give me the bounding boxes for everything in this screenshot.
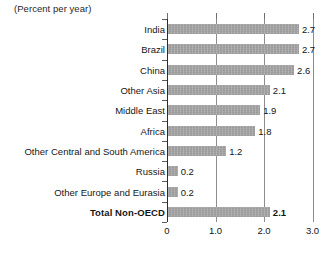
bar-value-label: 0.2	[181, 166, 194, 177]
bar-row: Total Non-OECD2.1	[0, 202, 335, 222]
category-label: India	[144, 24, 165, 35]
bar	[168, 65, 294, 75]
bar-row: China2.6	[0, 60, 335, 80]
bar-row: Brazil2.7	[0, 39, 335, 59]
x-tick-label-0: 0	[164, 225, 169, 236]
category-label: Russia	[136, 166, 165, 177]
bar-value-label: 0.2	[181, 186, 194, 197]
bar	[168, 187, 178, 197]
bar-value-label: 1.9	[263, 105, 276, 116]
x-tick-label-3.0: 3.0	[306, 225, 319, 236]
bar-row: India2.7	[0, 19, 335, 39]
bar-row: Other Europe and Eurasia0.2	[0, 181, 335, 201]
bar-row: Other Central and South America1.2	[0, 141, 335, 161]
x-tick-label-2.0: 2.0	[257, 225, 270, 236]
bar-row: Other Asia2.1	[0, 80, 335, 100]
category-label: Africa	[141, 125, 165, 136]
bar-value-label: 2.6	[297, 64, 310, 75]
bar-value-label: 2.1	[273, 206, 286, 217]
plot-area: India2.7Brazil2.7China2.6Other Asia2.1Mi…	[0, 0, 335, 258]
x-tick-label-1.0: 1.0	[209, 225, 222, 236]
category-label: China	[140, 64, 165, 75]
bar	[168, 126, 255, 136]
category-label: Other Europe and Eurasia	[54, 186, 165, 197]
bar-row: Middle East1.9	[0, 100, 335, 120]
category-label: Middle East	[115, 105, 165, 116]
bar	[168, 207, 270, 217]
bar-value-label: 2.7	[302, 24, 315, 35]
bar-chart: (Percent per year) India2.7Brazil2.7Chin…	[0, 0, 335, 258]
bar-value-label: 2.7	[302, 44, 315, 55]
bar	[168, 44, 299, 54]
bar	[168, 85, 270, 95]
bar-value-label: 2.1	[273, 85, 286, 96]
bar	[168, 24, 299, 34]
row-tick	[162, 222, 167, 223]
category-label: Total Non-OECD	[90, 206, 165, 217]
bar-row: Africa1.8	[0, 121, 335, 141]
row-tick	[162, 19, 167, 20]
bar-value-label: 1.8	[258, 125, 271, 136]
category-label: Other Asia	[120, 85, 165, 96]
bar	[168, 166, 178, 176]
bar	[168, 146, 226, 156]
category-label: Brazil	[141, 44, 165, 55]
bar	[168, 105, 260, 115]
bar-row: Russia0.2	[0, 161, 335, 181]
category-label: Other Central and South America	[24, 145, 165, 156]
bar-value-label: 1.2	[229, 145, 242, 156]
